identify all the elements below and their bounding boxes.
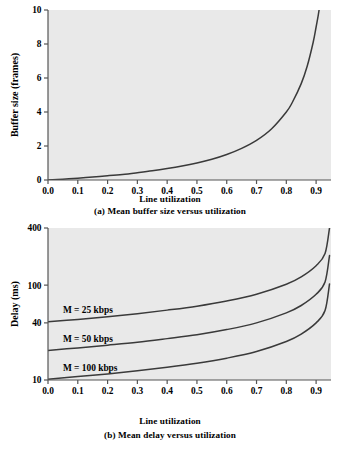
y-tick-label-3: 400 bbox=[27, 223, 41, 233]
x-axis-title-b: Line utilization bbox=[0, 416, 340, 426]
plot-area-background bbox=[48, 228, 331, 380]
plot-area-background bbox=[48, 10, 331, 180]
x-axis-title-a: Line utilization bbox=[0, 194, 340, 204]
y-axis-title: Delay (ms) bbox=[9, 281, 21, 327]
mean-buffer-size-chart: 02468100.00.10.20.30.40.50.60.70.80.9Buf… bbox=[0, 0, 340, 200]
y-tick-label-1: 2 bbox=[37, 141, 42, 151]
y-axis-title: Buffer size (frames) bbox=[9, 53, 21, 137]
mean-delay-chart: 10401004000.00.10.20.30.40.50.60.70.80.9… bbox=[0, 214, 340, 414]
y-tick-label-0: 10 bbox=[32, 375, 42, 385]
annotation-label-0: M = 25 kbps bbox=[63, 305, 113, 315]
figure-container: 02468100.00.10.20.30.40.50.60.70.80.9Buf… bbox=[0, 0, 340, 451]
figure-caption-b: (b) Mean delay versus utilization bbox=[0, 430, 340, 440]
y-tick-label-2: 100 bbox=[27, 281, 41, 291]
x-tick-label-9: 0.9 bbox=[310, 386, 322, 396]
x-tick-label-1: 0.1 bbox=[72, 386, 84, 396]
annotation-label-1: M = 50 kbps bbox=[63, 334, 113, 344]
x-tick-label-7: 0.7 bbox=[251, 386, 263, 396]
x-tick-label-6: 0.6 bbox=[221, 386, 233, 396]
x-tick-label-2: 0.2 bbox=[102, 386, 114, 396]
y-tick-label-2: 4 bbox=[37, 107, 42, 117]
chart-panel-buffer-size: 02468100.00.10.20.30.40.50.60.70.80.9Buf… bbox=[0, 0, 340, 218]
y-tick-label-0: 0 bbox=[37, 175, 42, 185]
y-tick-label-3: 6 bbox=[37, 73, 42, 83]
x-tick-label-5: 0.5 bbox=[191, 386, 203, 396]
x-tick-label-3: 0.3 bbox=[132, 386, 144, 396]
annotation-label-2: M = 100 kbps bbox=[63, 363, 118, 373]
y-tick-label-5: 10 bbox=[32, 5, 42, 15]
y-tick-label-4: 8 bbox=[37, 39, 42, 49]
y-tick-label-1: 40 bbox=[32, 318, 42, 328]
x-tick-label-8: 0.8 bbox=[280, 386, 292, 396]
x-tick-label-4: 0.4 bbox=[161, 386, 173, 396]
x-tick-label-0: 0.0 bbox=[42, 386, 54, 396]
